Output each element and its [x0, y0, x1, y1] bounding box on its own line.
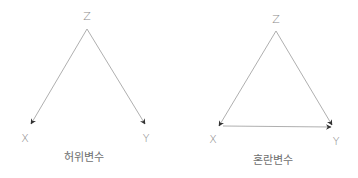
node-y-label: Y [143, 133, 150, 144]
spurious-diagram [31, 29, 145, 124]
edge-z-to-x [219, 31, 276, 126]
node-z-label: Z [272, 14, 280, 25]
spurious-caption: 허위변수 [64, 152, 104, 163]
node-z-label: Z [83, 11, 91, 22]
edge-z-to-y [276, 31, 332, 125]
confounding-caption: 혼란변수 [253, 155, 293, 166]
edge-z-to-y [87, 29, 145, 124]
edge-z-to-x [31, 29, 87, 124]
node-x-label: X [21, 133, 29, 144]
node-y-label: Y [333, 136, 340, 147]
confounding-diagram [219, 31, 332, 127]
causal-diagrams [0, 0, 358, 178]
node-x-label: X [209, 134, 217, 145]
edge-x-to-y [223, 126, 331, 127]
